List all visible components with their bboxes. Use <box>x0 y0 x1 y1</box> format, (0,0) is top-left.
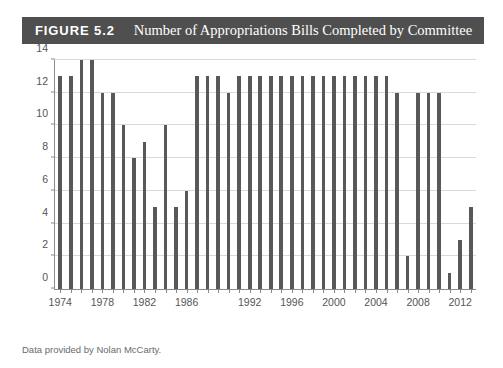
x-axis-tick-mark <box>229 289 230 293</box>
x-axis-tick-mark <box>334 289 335 293</box>
bar <box>406 256 410 289</box>
x-axis-tick-mark <box>144 289 145 293</box>
y-axis-tick-label: 4 <box>42 206 48 218</box>
figure-title-banner: FIGURE 5.2 Number of Appropriations Bill… <box>22 17 484 44</box>
x-axis-tick-label: 2008 <box>406 296 429 308</box>
bar <box>385 76 389 289</box>
x-axis-tick-mark <box>271 289 272 293</box>
x-axis-tick-mark <box>281 289 282 293</box>
bar <box>101 93 105 289</box>
source-note: Data provided by Nolan McCarty. <box>22 344 161 355</box>
bar <box>343 76 347 289</box>
x-axis-tick-mark <box>81 289 82 293</box>
x-axis-tick-mark <box>218 289 219 293</box>
x-axis-tick-mark <box>429 289 430 293</box>
bar <box>174 207 178 289</box>
figure-title-text: Number of Appropriations Bills Completed… <box>134 22 472 39</box>
x-axis-tick-label: 2004 <box>364 296 387 308</box>
x-axis-tick-mark <box>408 289 409 293</box>
y-axis-tick-label: 10 <box>36 107 48 119</box>
bar <box>90 60 94 289</box>
bar <box>111 93 115 289</box>
x-axis-tick-label: 2000 <box>322 296 345 308</box>
bar <box>437 93 441 289</box>
bar <box>195 76 199 289</box>
bar <box>132 158 136 289</box>
x-axis-tick-mark <box>208 289 209 293</box>
x-axis-tick-mark <box>376 289 377 293</box>
bar <box>237 76 241 289</box>
x-axis-tick-mark <box>92 289 93 293</box>
bar <box>427 93 431 289</box>
bar <box>332 76 336 289</box>
x-axis-tick-label: 2012 <box>449 296 472 308</box>
y-axis-tick-label: 0 <box>42 271 48 283</box>
x-axis-tick-mark <box>397 289 398 293</box>
x-axis-tick-mark <box>323 289 324 293</box>
x-axis-tick-mark <box>302 289 303 293</box>
x-axis-tick-mark <box>439 289 440 293</box>
chart-plot-wrapper: 02468101214 1974197819821986199219962000… <box>22 52 484 316</box>
bar <box>258 76 262 289</box>
x-axis-tick-mark <box>471 289 472 293</box>
x-axis-tick-mark <box>387 289 388 293</box>
bar <box>269 76 273 289</box>
bar <box>395 93 399 289</box>
x-axis-tick-label: 1986 <box>175 296 198 308</box>
x-axis-tick-mark <box>113 289 114 293</box>
x-axis-tick-mark <box>123 289 124 293</box>
x-axis-tick-mark <box>197 289 198 293</box>
x-axis-tick-mark <box>134 289 135 293</box>
bar <box>69 76 73 289</box>
bar <box>206 76 210 289</box>
y-axis-tick-label: 2 <box>42 238 48 250</box>
bar <box>301 76 305 289</box>
bar <box>416 93 420 289</box>
x-axis-tick-mark <box>155 289 156 293</box>
bar <box>153 207 157 289</box>
x-axis-tick-mark <box>450 289 451 293</box>
bar <box>290 76 294 289</box>
x-axis-tick-label: 1996 <box>280 296 303 308</box>
x-axis-tick-mark <box>166 289 167 293</box>
x-axis-tick-mark <box>187 289 188 293</box>
bar <box>248 76 252 289</box>
bar <box>322 76 326 289</box>
bar <box>364 76 368 289</box>
x-axis-tick-mark <box>260 289 261 293</box>
x-axis-tick-mark <box>239 289 240 293</box>
bar-series <box>55 60 476 289</box>
bar <box>279 76 283 289</box>
bar <box>185 191 189 289</box>
y-axis-tick-label: 8 <box>42 140 48 152</box>
x-axis-tick-label: 1982 <box>133 296 156 308</box>
x-axis-tick-label: 1992 <box>238 296 261 308</box>
bar <box>458 240 462 289</box>
bar <box>448 273 452 289</box>
x-axis-tick-mark <box>355 289 356 293</box>
bar <box>122 125 126 289</box>
bar <box>469 207 473 289</box>
x-axis-tick-mark <box>460 289 461 293</box>
bar <box>227 93 231 289</box>
bar <box>311 76 315 289</box>
x-axis-tick-mark <box>176 289 177 293</box>
x-axis-tick-mark <box>313 289 314 293</box>
x-axis-tick-mark <box>418 289 419 293</box>
bar <box>216 76 220 289</box>
x-axis-tick-label: 1974 <box>49 296 72 308</box>
bar <box>353 76 357 289</box>
x-axis-tick-mark <box>365 289 366 293</box>
bar <box>143 142 147 289</box>
x-axis-tick-mark <box>292 289 293 293</box>
x-axis-tick-mark <box>60 289 61 293</box>
x-axis-tick-mark <box>344 289 345 293</box>
bar <box>374 76 378 289</box>
y-axis-tick-label: 14 <box>36 42 48 54</box>
y-axis-tick-label: 6 <box>42 173 48 185</box>
figure-number-label: FIGURE 5.2 <box>35 23 115 38</box>
figure-container: FIGURE 5.2 Number of Appropriations Bill… <box>0 0 503 368</box>
y-axis-tick-label: 12 <box>36 75 48 87</box>
chart-plot-area: 02468101214 1974197819821986199219962000… <box>54 60 476 290</box>
x-axis-tick-mark <box>71 289 72 293</box>
